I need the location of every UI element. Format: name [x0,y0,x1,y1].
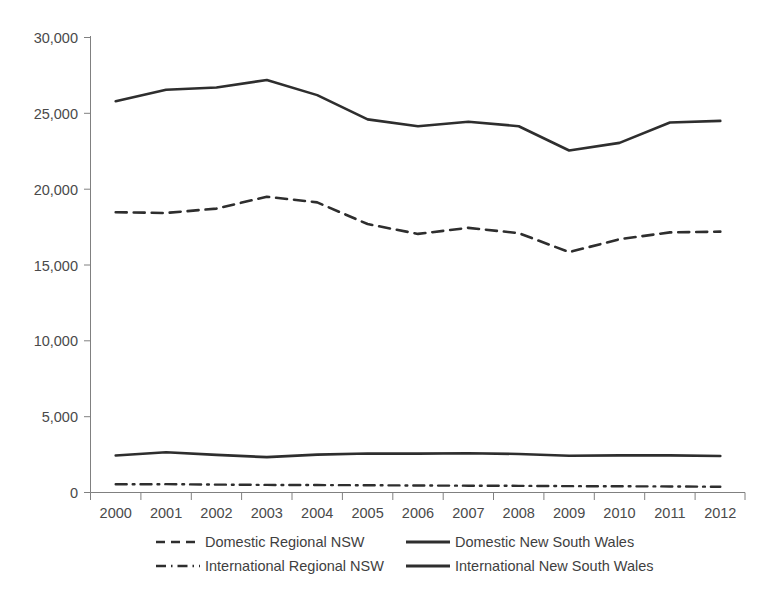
legend-label: International Regional NSW [205,558,384,574]
legend-label: Domestic Regional NSW [205,534,365,550]
x-tick-label: 2006 [402,505,434,521]
legend-swatch-dash-dot-icon [155,559,201,573]
y-tick-label: 5,000 [42,409,78,425]
chart-container: 30,000 25,000 20,000 15,000 10,000 5,000… [0,0,773,595]
x-tick-label: 2005 [351,505,383,521]
legend-swatch-solid-icon [405,535,451,549]
x-tick-label: 2000 [100,505,132,521]
legend-entry-international-new-south-wales: International New South Wales [405,558,655,574]
line-chart-plot: 30,000 25,000 20,000 15,000 10,000 5,000… [0,0,773,595]
x-tick-label: 2001 [150,505,182,521]
x-tick-label: 2010 [603,505,635,521]
x-tick-label: 2004 [301,505,333,521]
y-tick-label: 20,000 [34,182,78,198]
series-path-international-new-south-wales [116,452,721,457]
legend-row: International Regional NSW International… [155,554,655,578]
legend-row: Domestic Regional NSW Domestic New South… [155,530,655,554]
x-tick-label: 2002 [200,505,232,521]
legend-entry-domestic-new-south-wales: Domestic New South Wales [405,534,655,550]
y-tick-label: 25,000 [34,106,78,122]
y-tick-label: 30,000 [34,30,78,46]
series-path-international-regional-nsw [116,484,721,487]
legend-label: Domestic New South Wales [455,534,634,550]
y-tick-label: 0 [70,485,78,501]
legend-label: International New South Wales [455,558,654,574]
series-path-domestic-new-south-wales [116,80,721,151]
x-axis-tick-labels: 2000 2001 2002 2003 2004 2005 2006 2007 … [100,505,737,521]
x-tick-label: 2003 [251,505,283,521]
legend-entry-international-regional-nsw: International Regional NSW [155,558,405,574]
chart-legend: Domestic Regional NSW Domestic New South… [155,530,655,582]
x-tick-label: 2007 [452,505,484,521]
legend-entry-domestic-regional-nsw: Domestic Regional NSW [155,534,405,550]
legend-swatch-dashed-icon [155,535,201,549]
series-path-domestic-regional-nsw [116,197,721,252]
legend-swatch-solid-icon [405,559,451,573]
y-axis-tick-labels: 30,000 25,000 20,000 15,000 10,000 5,000… [34,30,78,501]
x-tick-label: 2012 [704,505,736,521]
series-group [116,80,721,487]
x-tick-label: 2008 [503,505,535,521]
y-tick-label: 10,000 [34,333,78,349]
x-tick-label: 2009 [553,505,585,521]
y-axis-ticks [84,38,91,493]
x-axis-ticks [91,493,746,501]
x-tick-label: 2011 [654,505,685,521]
y-tick-label: 15,000 [34,258,78,274]
